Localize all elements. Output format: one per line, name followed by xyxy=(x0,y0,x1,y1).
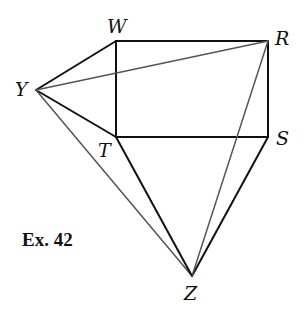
segment-TZ xyxy=(116,137,192,276)
label-R: R xyxy=(274,27,289,49)
label-W: W xyxy=(107,15,128,37)
label-Z: Z xyxy=(183,282,198,304)
exercise-caption: Ex. 42 xyxy=(22,229,73,250)
label-S: S xyxy=(276,127,289,149)
label-Y: Y xyxy=(15,78,30,100)
segment-YT xyxy=(36,90,116,137)
label-T: T xyxy=(98,139,112,161)
segment-YR xyxy=(36,41,268,90)
segment-YW xyxy=(36,41,116,90)
geometry-diagram: W R S T Y Z Ex. 42 xyxy=(0,0,308,310)
